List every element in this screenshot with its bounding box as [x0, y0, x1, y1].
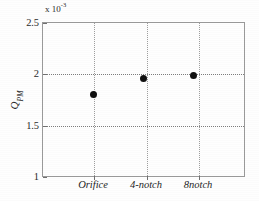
- y-axis-exponent-power: -3: [61, 1, 66, 8]
- x-tick-label: Orifice: [78, 180, 108, 191]
- data-point-8notch: [190, 72, 197, 79]
- gridline-vertical-orifice: [94, 23, 95, 176]
- gridline-horizontal-1p5: [43, 126, 244, 127]
- plot-area: [42, 22, 245, 177]
- y-axis-exponent-prefix: x 10: [45, 4, 61, 14]
- y-tick-label: 1: [34, 172, 39, 183]
- x-tick-label: 4-notch: [130, 180, 162, 191]
- y-axis-exponent-label: x 10-3: [45, 3, 66, 14]
- y-tick-mark: [43, 126, 47, 127]
- x-tick-label: 8notch: [184, 180, 213, 191]
- y-tick-label: 2: [34, 69, 39, 80]
- gridline-vertical-4notch: [147, 23, 148, 176]
- figure-canvas: x 10-3 QPM 2.5 2 1.5 1 Orifice: [0, 0, 259, 201]
- y-tick-mark: [43, 23, 47, 24]
- y-axis-tick-labels: 2.5 2 1.5 1: [0, 22, 39, 177]
- y-tick-mark: [43, 177, 47, 178]
- x-axis-tick-labels: Orifice 4-notch 8notch: [42, 180, 245, 198]
- y-tick-mark: [43, 74, 47, 75]
- y-tick-label: 1.5: [26, 121, 39, 132]
- y-tick-label: 2.5: [26, 18, 39, 29]
- data-point-4notch: [140, 75, 147, 82]
- gridline-vertical-8notch: [199, 23, 200, 176]
- data-point-orifice: [90, 91, 97, 98]
